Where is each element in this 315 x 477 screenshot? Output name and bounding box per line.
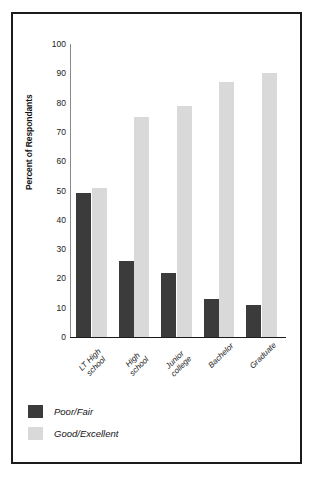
legend-item-good-excellent: Good/Excellent: [28, 422, 118, 444]
bar-lt-high-school-poor-fair: [76, 193, 91, 337]
legend-swatch-icon: [28, 405, 43, 418]
y-tick-label-40: 40: [38, 216, 66, 225]
legend-label: Poor/Fair: [54, 406, 93, 417]
y-tick-label-20: 20: [38, 274, 66, 283]
y-tick-label-80: 80: [38, 98, 66, 107]
bar-graduate-good-excellent: [262, 73, 277, 337]
bar-high-school-good-excellent: [134, 117, 149, 337]
legend-item-poor-fair: Poor/Fair: [28, 400, 118, 422]
legend-label: Good/Excellent: [54, 428, 118, 439]
bar-junior-college-poor-fair: [161, 273, 176, 337]
x-axis-line: [70, 337, 286, 338]
y-tick-label-70: 70: [38, 128, 66, 137]
bar-lt-high-school-good-excellent: [92, 188, 107, 337]
bar-junior-college-good-excellent: [177, 106, 192, 337]
bar-high-school-poor-fair: [119, 261, 134, 337]
y-tick-label-10: 10: [38, 303, 66, 312]
chart-figure: Percent of Respondants 100 90 80 70 60 5…: [0, 0, 315, 477]
y-tick-label-100: 100: [38, 40, 66, 49]
chart-legend: Poor/FairGood/Excellent: [28, 400, 118, 444]
y-tick-label-60: 60: [38, 157, 66, 166]
bar-graduate-poor-fair: [246, 305, 261, 337]
y-tick-label-50: 50: [38, 186, 66, 195]
bar-bachelor-poor-fair: [204, 299, 219, 337]
bar-bachelor-good-excellent: [219, 82, 234, 337]
legend-swatch-icon: [28, 427, 43, 440]
y-tick-label-0: 0: [38, 333, 66, 342]
y-axis-title: Percent of Respondants: [24, 94, 34, 190]
y-tick-label-30: 30: [38, 245, 66, 254]
y-tick-label-90: 90: [38, 69, 66, 78]
